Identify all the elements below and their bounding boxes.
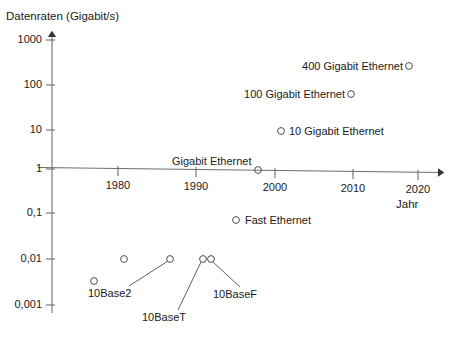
x-tick-label-2020: 2020 bbox=[403, 183, 433, 195]
y-tick-label-100: 100 bbox=[0, 78, 42, 90]
point-label-400-gigabit-ethernet: 400 Gigabit Ethernet bbox=[279, 60, 403, 72]
y-tick-label-1000: 1000 bbox=[0, 33, 42, 45]
y-tick-label-1: 1 bbox=[0, 162, 42, 174]
x-tick-label-2000: 2000 bbox=[260, 181, 290, 193]
marker-400-gigabit-ethernet bbox=[406, 63, 413, 70]
y-tick-label-10: 10 bbox=[0, 123, 42, 135]
point-label-10basef: 10BaseF bbox=[213, 288, 257, 300]
y-tick-label-0-001: 0,001 bbox=[0, 298, 42, 310]
point-label-100-gigabit-ethernet: 100 Gigabit Ethernet bbox=[221, 88, 345, 100]
x-axis-ticks bbox=[118, 166, 418, 180]
point-label-gigabit-ethernet: Gigabit Ethernet bbox=[172, 155, 252, 167]
annotation-leader-lines bbox=[129, 261, 240, 310]
point-label-fast-ethernet: Fast Ethernet bbox=[245, 214, 311, 226]
chart-canvas: Datenraten (Gigabit/s) Jahr 1000 100 10 … bbox=[0, 0, 453, 342]
x-axis-title: Jahr bbox=[396, 198, 418, 210]
marker-10base2 bbox=[121, 256, 128, 263]
point-label-10base2: 10Base2 bbox=[88, 287, 131, 299]
x-axis-line bbox=[38, 168, 441, 173]
marker-10baset bbox=[200, 256, 207, 263]
marker-early-ethernet bbox=[91, 278, 98, 285]
x-tick-label-1980: 1980 bbox=[103, 179, 133, 191]
x-tick-label-1990: 1990 bbox=[181, 180, 211, 192]
y-tick-label-0-1: 0,1 bbox=[0, 206, 42, 218]
point-label-10-gigabit-ethernet: 10 Gigabit Ethernet bbox=[289, 125, 384, 137]
marker-fast-ethernet bbox=[233, 217, 240, 224]
y-tick-label-0-01: 0,01 bbox=[0, 252, 42, 264]
y-axis-ticks bbox=[46, 40, 55, 305]
point-label-10baset: 10BaseT bbox=[142, 311, 186, 323]
y-axis-title: Datenraten (Gigabit/s) bbox=[6, 10, 119, 22]
marker-10basef bbox=[208, 256, 215, 263]
marker-100-gigabit-ethernet bbox=[348, 91, 355, 98]
marker-10base5 bbox=[167, 256, 174, 263]
marker-10-gigabit-ethernet bbox=[278, 128, 285, 135]
x-tick-label-2010: 2010 bbox=[338, 182, 368, 194]
